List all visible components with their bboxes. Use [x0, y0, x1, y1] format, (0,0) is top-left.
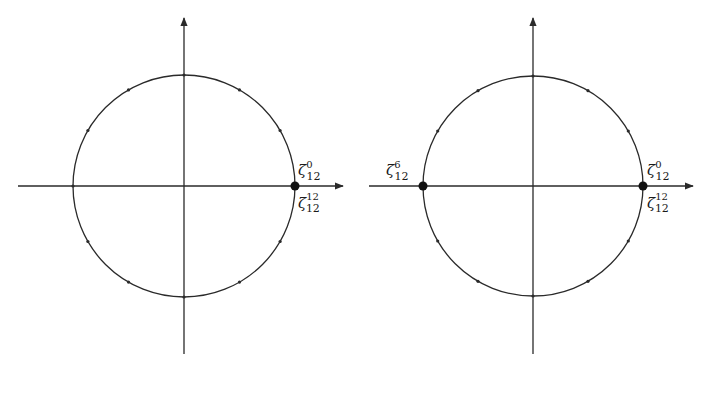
right-label-zeta12: ζ1212: [647, 191, 669, 215]
root-tick-dot: [86, 240, 89, 243]
right-label-zeta0: ζ012: [647, 159, 670, 183]
root-tick-dot: [238, 281, 241, 284]
root-tick-dot: [127, 281, 130, 284]
root-tick-dot: [238, 88, 241, 91]
root-tick-dot: [182, 73, 185, 76]
root-tick-dot: [436, 129, 439, 132]
left-label-zeta12: ζ1212: [298, 191, 320, 215]
root-tick-dot: [279, 129, 282, 132]
root-tick-dot: [627, 239, 630, 242]
root-tick-dot: [531, 74, 534, 77]
left-root-zeta0-dot: [291, 182, 300, 191]
left-label-zeta0: ζ012: [298, 159, 321, 183]
root-tick-dot: [627, 129, 630, 132]
right-panel: ζ012 ζ1212 ζ612: [369, 18, 693, 354]
root-tick-dot: [436, 239, 439, 242]
root-tick-dot: [71, 184, 74, 187]
root-tick-dot: [476, 89, 479, 92]
root-tick-dot: [531, 294, 534, 297]
root-tick-dot: [182, 295, 185, 298]
root-tick-dot: [127, 88, 130, 91]
roots-of-unity-figure: ζ012 ζ1212 ζ012 ζ1212 ζ612: [0, 0, 702, 400]
right-label-zeta6: ζ612: [386, 159, 409, 183]
root-tick-dot: [86, 129, 89, 132]
root-tick-dot: [279, 240, 282, 243]
right-root-zeta6-dot: [419, 182, 428, 191]
root-tick-dot: [586, 280, 589, 283]
right-root-zeta0-dot: [639, 182, 648, 191]
left-panel: ζ012 ζ1212: [18, 18, 343, 354]
root-tick-dot: [586, 89, 589, 92]
root-tick-dot: [476, 280, 479, 283]
